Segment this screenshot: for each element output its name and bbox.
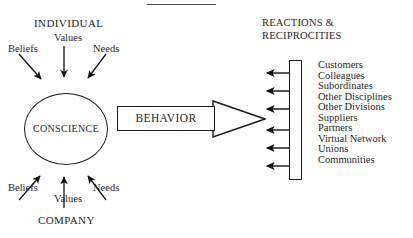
stakeholder-item: Customers: [318, 60, 392, 71]
company-input-label-needs: Needs: [93, 183, 119, 194]
stakeholder-item: Unions: [318, 144, 392, 155]
reactions-bar: [289, 60, 302, 180]
heading-reactions-line2: RECIPROCITIES: [262, 29, 342, 42]
arrow-individual-needs: [88, 54, 106, 78]
top-divider-rule: [147, 4, 216, 5]
heading-individual: INDIVIDUAL: [34, 18, 103, 29]
arrow-individual-beliefs: [19, 54, 41, 79]
company-input-label-beliefs: Beliefs: [8, 183, 38, 194]
stakeholder-item: Communities: [318, 155, 392, 166]
diagram-canvas: INDIVIDUAL Beliefs Values Needs CONSCIEN…: [0, 0, 413, 238]
stakeholder-item: Other Divisions: [318, 102, 392, 113]
stakeholder-item: Subordinates: [318, 81, 392, 92]
heading-reactions-line1: REACTIONS &: [262, 16, 342, 29]
stakeholder-item: Partners: [318, 123, 392, 134]
stakeholder-list: Customers Colleagues Subordinates Other …: [318, 60, 392, 165]
heading-reactions: REACTIONS & RECIPROCITIES: [262, 16, 342, 42]
company-input-label-values: Values: [54, 194, 82, 205]
heading-company: COMPANY: [38, 215, 95, 226]
behavior-label: BEHAVIOR: [117, 106, 215, 131]
